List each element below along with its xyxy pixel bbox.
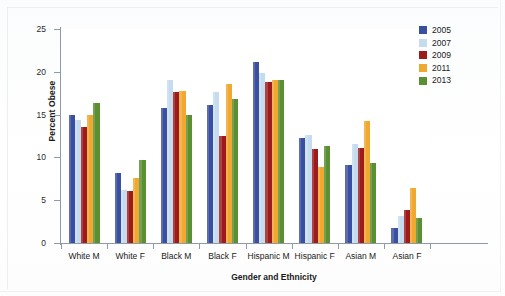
x-tick [107,243,108,249]
x-category-label: Asian F [384,251,430,261]
plot-area [61,29,430,243]
x-tick [61,243,62,249]
legend-swatch-icon [419,64,427,72]
x-category-label: Asian M [338,251,384,261]
legend-swatch-icon [419,26,427,34]
y-tick-label: 5 [0,196,46,205]
bar-asian-f-2013 [416,218,422,243]
legend-item-2013[interactable]: 2013 [419,74,499,87]
y-tick-label: 25 [0,25,46,34]
x-category-label: Hispanic M [246,251,292,261]
legend-label: 2007 [432,39,451,48]
bar-fill [93,103,99,243]
legend-swatch-icon [419,39,427,47]
x-tick [246,243,247,249]
x-category-label: Black F [199,251,245,261]
legend-item-2005[interactable]: 2005 [419,24,499,37]
bar-hispanic-m-2013 [278,80,284,243]
legend-item-2009[interactable]: 2009 [419,49,499,62]
x-tick [430,243,431,249]
x-tick [153,243,154,249]
y-axis-title: Percent Obese [47,51,57,171]
legend-label: 2009 [432,51,451,60]
bar-asian-m-2013 [370,163,376,243]
bar-fill [370,163,376,243]
x-tick [199,243,200,249]
legend-swatch-icon [419,51,427,59]
x-category-label: White F [107,251,153,261]
bar-white-m-2013 [93,103,99,243]
legend-label: 2011 [432,64,450,73]
bar-fill [278,80,284,243]
x-tick [338,243,339,249]
y-tick [54,29,60,30]
bar-black-f-2013 [232,99,238,243]
legend: 20052007200920112013 [419,24,499,87]
x-category-label: White M [61,251,107,261]
legend-item-2007[interactable]: 2007 [419,37,499,50]
bar-black-m-2013 [186,115,192,243]
legend-item-2011[interactable]: 2011 [419,62,499,75]
legend-label: 2005 [432,26,451,35]
x-tick [292,243,293,249]
bar-fill [232,99,238,243]
x-category-label: Hispanic F [292,251,338,261]
legend-swatch-icon [419,77,427,85]
x-category-label: Black M [153,251,199,261]
x-tick [384,243,385,249]
bar-fill [324,146,330,243]
y-tick-label: 10 [0,153,46,162]
y-tick-label: 20 [0,68,46,77]
bar-white-f-2013 [139,160,145,243]
bar-fill [139,160,145,243]
legend-label: 2013 [432,76,451,85]
y-tick-label: 15 [0,111,46,120]
y-tick-label: 0 [0,239,46,248]
x-axis-title: Gender and Ethnicity [60,272,488,282]
bar-fill [186,115,192,243]
bar-fill [416,218,422,243]
bar-hispanic-f-2013 [324,146,330,243]
obesity-bar-chart-figure: 0510152025 Percent Obese White MWhite FB… [0,0,505,296]
x-axis-line [60,243,488,244]
y-tick [54,200,60,201]
